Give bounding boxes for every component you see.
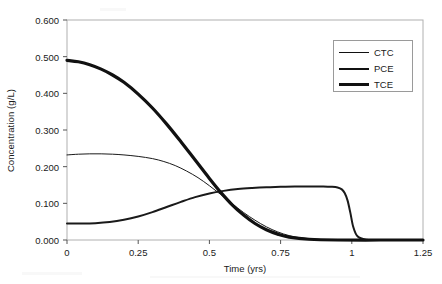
legend-item-ctc: CTC <box>334 44 414 61</box>
legend-item-pce: PCE <box>334 60 414 77</box>
legend-swatch-icon <box>339 68 369 70</box>
chart-figure: Concentration (g/L) Time (yrs) 0.0000.10… <box>0 0 442 284</box>
legend-swatch-icon <box>339 52 369 53</box>
legend: CTCPCETCE <box>333 40 413 92</box>
legend-item-tce: TCE <box>334 76 414 93</box>
legend-label: PCE <box>374 63 394 74</box>
legend-swatch-icon <box>339 83 369 86</box>
legend-label: CTC <box>374 47 394 58</box>
series-line-ctc <box>67 154 423 240</box>
legend-label: TCE <box>374 79 393 90</box>
